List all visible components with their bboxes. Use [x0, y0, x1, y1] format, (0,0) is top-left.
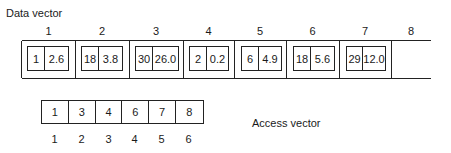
av-index: 1: [41, 133, 68, 145]
av-index: 6: [175, 133, 202, 145]
dv-cell-2: 18 3.8: [75, 41, 129, 78]
dv-value: 0.2: [207, 47, 228, 70]
dv-value: 26.0: [153, 47, 178, 70]
dv-pair: 29 12.0: [346, 46, 386, 71]
dv-index: 8: [391, 25, 431, 37]
dv-key: 2: [190, 47, 207, 70]
data-vector-label: Data vector: [6, 7, 62, 19]
access-vector: 1 3 4 6 7 8: [41, 100, 204, 124]
dv-pair: 18 5.6: [293, 46, 335, 71]
dv-index: 6: [286, 25, 339, 37]
dv-index: 7: [339, 25, 391, 37]
av-cell: 1: [42, 101, 69, 123]
dv-key: 6: [242, 47, 259, 70]
dv-index: 3: [129, 25, 183, 37]
dv-key: 18: [294, 47, 311, 70]
av-cell: 7: [149, 101, 176, 123]
dv-value: 4.9: [259, 47, 281, 70]
dv-pair: 2 0.2: [189, 46, 229, 71]
dv-key: 29: [347, 47, 363, 70]
av-index: 2: [68, 133, 95, 145]
data-vector: 1 2.6 18 3.8 30 26.0 2 0.2 6 4.9 18 5.6: [22, 40, 431, 79]
av-index: 4: [121, 133, 148, 145]
dv-index: 1: [22, 25, 75, 37]
dv-cell-6: 18 5.6: [286, 41, 339, 78]
dv-value: 2.6: [45, 47, 68, 70]
dv-key: 18: [82, 47, 99, 70]
dv-key: 30: [136, 47, 153, 70]
dv-pair: 30 26.0: [135, 46, 179, 71]
dv-value: 12.0: [363, 47, 385, 70]
dv-cell-7: 29 12.0: [339, 41, 391, 78]
access-vector-label: Access vector: [252, 117, 320, 129]
dv-value: 3.8: [99, 47, 122, 70]
dv-pair: 6 4.9: [241, 46, 282, 71]
dv-cell-1: 1 2.6: [21, 41, 75, 78]
av-index: 3: [95, 133, 122, 145]
dv-pair: 18 3.8: [81, 46, 123, 71]
dv-value: 5.6: [311, 47, 334, 70]
dv-cell-5: 6 4.9: [234, 41, 286, 78]
av-index: 5: [148, 133, 175, 145]
dv-cell-3: 30 26.0: [129, 41, 183, 78]
dv-index: 5: [234, 25, 286, 37]
dv-cell-8-empty: [391, 41, 431, 78]
dv-key: 1: [28, 47, 45, 70]
av-cell: 8: [176, 101, 203, 123]
dv-cell-4: 2 0.2: [183, 41, 234, 78]
dv-index: 4: [183, 25, 234, 37]
dv-index: 2: [75, 25, 129, 37]
av-cell: 4: [96, 101, 123, 123]
av-cell: 3: [69, 101, 96, 123]
dv-pair: 1 2.6: [27, 46, 69, 71]
av-cell: 6: [122, 101, 149, 123]
